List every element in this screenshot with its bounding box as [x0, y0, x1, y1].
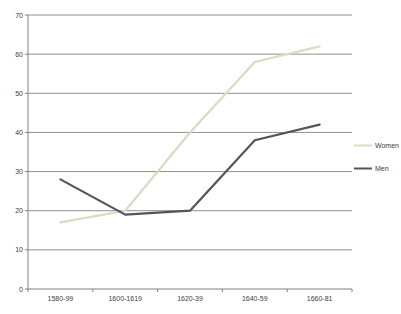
y-axis-label: 40: [15, 129, 23, 136]
legend-label-men: Men: [375, 165, 389, 172]
x-axis-label: 1580-99: [48, 295, 74, 302]
y-axis-label: 50: [15, 90, 23, 97]
y-axis-label: 30: [15, 168, 23, 175]
y-axis-label: 20: [15, 207, 23, 214]
x-axis-label: 1660-81: [307, 295, 333, 302]
y-axis-label: 10: [15, 246, 23, 253]
x-axis-label: 1620-39: [177, 295, 203, 302]
chart-image: 0102030405060701580-991600-16191620-3916…: [0, 0, 401, 314]
legend-label-women: Women: [375, 142, 399, 149]
y-axis-label: 60: [15, 51, 23, 58]
y-axis-label: 0: [19, 286, 23, 293]
series-line-men: [60, 125, 319, 215]
x-axis-label: 1600-1619: [108, 295, 142, 302]
x-axis-label: 1640-59: [242, 295, 268, 302]
y-axis-label: 70: [15, 12, 23, 19]
line-chart: 0102030405060701580-991600-16191620-3916…: [0, 0, 401, 314]
